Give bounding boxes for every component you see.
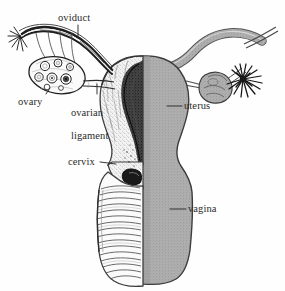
label-oviduct: oviduct: [58, 12, 90, 24]
label-vagina: vagina: [188, 203, 217, 215]
reproductive-tract-illustration: [0, 0, 285, 291]
label-ovarian-ligament-line1: ovarian: [71, 107, 103, 118]
label-ovarian-ligament-line2: ligament: [71, 130, 109, 141]
label-ovary: ovary: [18, 96, 42, 108]
figure-root: oviduct ovary ovarian ligament uterus ce…: [0, 0, 285, 291]
label-cervix: cervix: [68, 156, 95, 168]
label-uterus: uterus: [184, 100, 210, 112]
label-ovarian-ligament: ovarian ligament: [60, 96, 108, 152]
